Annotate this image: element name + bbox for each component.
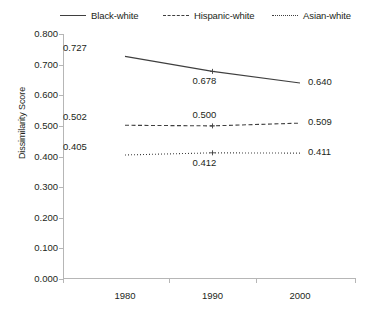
data-label: 0.640 — [308, 77, 332, 87]
data-label: 0.502 — [63, 112, 87, 122]
y-axis-tick-mark — [59, 65, 63, 66]
data-label: 0.509 — [308, 117, 332, 127]
y-axis-tick-labels: 0.8000.7000.6000.5000.4000.3000.2000.100… — [14, 0, 58, 311]
x-axis-tick-label: 2000 — [270, 290, 330, 301]
data-label: 0.412 — [193, 158, 217, 168]
y-axis-tick-label: 0.300 — [14, 182, 58, 192]
y-axis-tick-label: 0.800 — [14, 29, 58, 39]
x-axis-tick-mark — [256, 279, 257, 283]
y-axis-tick-label: 0.600 — [14, 90, 58, 100]
legend-item-hispanic-white: Hispanic-white — [163, 10, 254, 21]
x-axis-tick-label: 1980 — [95, 290, 155, 301]
y-axis-tick-mark — [59, 187, 63, 188]
y-axis-tick-label: 0.500 — [14, 121, 58, 131]
legend-label-asian-white: Asian-white — [303, 10, 351, 21]
y-axis-tick-mark — [59, 248, 63, 249]
y-axis-tick-label: 0.200 — [14, 213, 58, 223]
legend-line-dashed-icon — [163, 11, 189, 20]
legend-label-black-white: Black-white — [91, 10, 138, 21]
y-axis-tick-mark — [59, 34, 63, 35]
y-axis-tick-label: 0.400 — [14, 152, 58, 162]
data-label: 0.678 — [193, 76, 217, 86]
legend-item-black-white: Black-white — [60, 10, 138, 21]
legend-label-hispanic-white: Hispanic-white — [194, 10, 254, 21]
legend-line-solid-icon — [60, 11, 86, 20]
y-axis-tick-mark — [59, 157, 63, 158]
y-axis-tick-label: 0.700 — [14, 60, 58, 70]
legend-item-asian-white: Asian-white — [272, 10, 351, 21]
x-axis-tick-mark — [63, 279, 64, 283]
y-axis-tick-mark — [59, 95, 63, 96]
y-axis-tick-mark — [59, 126, 63, 127]
data-label: 0.405 — [63, 142, 87, 152]
data-label: 0.500 — [193, 110, 217, 120]
x-axis-tick-mark — [355, 279, 356, 283]
y-axis-tick-mark — [59, 218, 63, 219]
x-axis-tick-label: 1990 — [183, 290, 243, 301]
x-axis-tick-mark — [169, 279, 170, 283]
data-label: 0.411 — [308, 147, 331, 157]
y-axis-tick-label: 0.000 — [14, 274, 58, 284]
legend-line-dotted-icon — [272, 11, 298, 20]
data-label: 0.727 — [63, 43, 87, 53]
y-axis-tick-label: 0.100 — [14, 243, 58, 253]
